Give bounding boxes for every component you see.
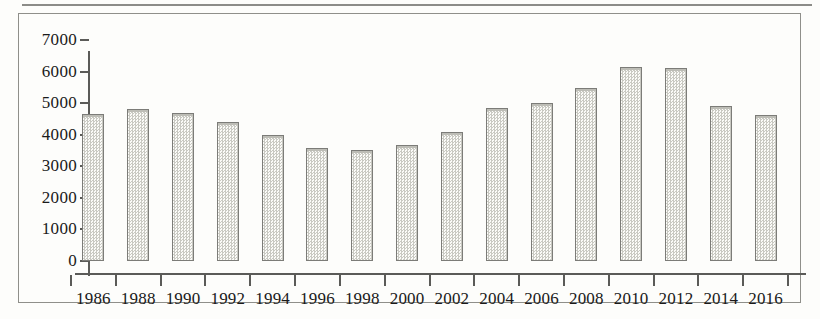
x-axis-tick-label: 1994 <box>250 290 295 308</box>
bar <box>82 114 104 261</box>
x-axis-tick <box>70 275 72 286</box>
bar <box>172 113 194 261</box>
x-axis-tick-label: 1988 <box>116 290 161 308</box>
x-axis-tick <box>473 275 475 286</box>
x-axis-tick <box>787 275 789 286</box>
y-axis-tick-label: 4000 <box>21 126 77 143</box>
bar <box>351 150 373 261</box>
bar <box>441 132 463 261</box>
x-axis-tick <box>697 275 699 286</box>
bar <box>755 115 777 261</box>
y-axis-tick-label: 0 <box>21 252 77 269</box>
y-axis-tick-label: 5000 <box>21 94 77 111</box>
x-axis-tick <box>742 275 744 286</box>
x-axis-tick <box>384 275 386 286</box>
x-axis-tick <box>653 275 655 286</box>
x-axis-tick <box>563 275 565 286</box>
bar <box>486 108 508 261</box>
bar <box>217 122 239 261</box>
bar <box>620 67 642 261</box>
x-axis-tick-label: 2012 <box>654 290 699 308</box>
bar <box>710 106 732 261</box>
x-axis-tick-label: 1998 <box>340 290 385 308</box>
x-axis-tick <box>294 275 296 286</box>
y-axis-tick-label: 2000 <box>21 189 77 206</box>
x-axis-tick <box>160 275 162 286</box>
chart-frame: 01000200030004000500060007000 1986198819… <box>18 13 801 303</box>
x-axis-tick-label: 2014 <box>698 290 743 308</box>
bar <box>127 109 149 261</box>
x-axis-tick <box>115 275 117 286</box>
y-axis-tick-label: 1000 <box>21 220 77 237</box>
y-axis-tick-label: 3000 <box>21 157 77 174</box>
x-axis-tick <box>339 275 341 286</box>
x-axis-tick <box>429 275 431 286</box>
bar <box>262 135 284 261</box>
y-axis-tick <box>80 102 89 104</box>
bar <box>665 68 687 261</box>
bar <box>396 145 418 261</box>
x-axis-tick-label: 2004 <box>474 290 519 308</box>
top-rule-divider <box>22 4 812 6</box>
x-axis-tick-label: 2016 <box>743 290 788 308</box>
x-axis-tick <box>518 275 520 286</box>
bar <box>575 88 597 261</box>
x-axis-tick-label: 1986 <box>71 290 116 308</box>
bar <box>306 148 328 261</box>
x-axis-line <box>75 273 806 275</box>
x-axis-tick <box>204 275 206 286</box>
y-axis-tick-label: 7000 <box>21 31 77 48</box>
x-axis-tick-label: 1996 <box>295 290 340 308</box>
x-axis-tick <box>608 275 610 286</box>
y-axis-tick <box>80 71 89 73</box>
x-axis-tick-label: 2010 <box>609 290 654 308</box>
x-axis-tick-label: 2000 <box>385 290 430 308</box>
y-axis-tick-label: 6000 <box>21 63 77 80</box>
x-axis-tick <box>249 275 251 286</box>
x-axis-tick-label: 1990 <box>161 290 206 308</box>
y-axis-tick <box>80 39 89 41</box>
bar-chart-figure: 01000200030004000500060007000 1986198819… <box>0 0 820 319</box>
x-axis-tick-label: 2008 <box>564 290 609 308</box>
x-axis-tick-label: 2006 <box>519 290 564 308</box>
x-axis-tick-label: 1992 <box>205 290 250 308</box>
bar <box>531 103 553 261</box>
x-axis-tick-label: 2002 <box>430 290 475 308</box>
